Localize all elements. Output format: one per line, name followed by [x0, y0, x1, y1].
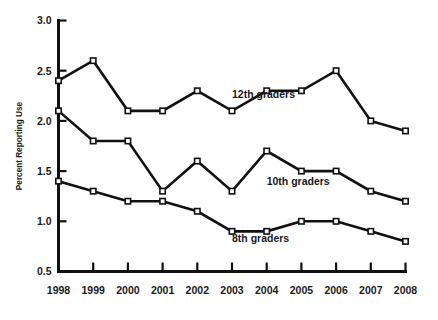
y-tick-label: 0.5: [37, 265, 52, 277]
x-axis-tick-labels: 1998199920002001200220032004200520062007…: [47, 284, 418, 296]
x-tick-label: 2007: [359, 284, 383, 296]
data-point-marker: [160, 188, 165, 193]
series-annotation-label: 8th graders: [232, 232, 289, 244]
line-chart: 0.51.01.52.02.53.0 199819992000200120022…: [0, 0, 438, 320]
y-tick-label: 2.5: [37, 65, 52, 77]
y-tick-label: 2.0: [37, 115, 52, 127]
data-point-marker: [56, 78, 61, 83]
x-tick-label: 2000: [116, 284, 140, 296]
data-point-marker: [91, 58, 96, 63]
data-point-marker: [299, 219, 304, 224]
x-tick-label: 2006: [324, 284, 348, 296]
x-tick-label: 2008: [394, 284, 418, 296]
data-point-marker: [333, 219, 338, 224]
data-point-marker: [56, 108, 61, 113]
series-line-10th-graders: [59, 111, 406, 201]
x-tick-label: 2003: [220, 284, 244, 296]
data-point-marker: [229, 108, 234, 113]
series-annotation-label: 10th graders: [267, 175, 330, 187]
y-axis-title: Percent Reporting Use: [15, 101, 24, 190]
data-point-marker: [91, 138, 96, 143]
data-point-marker: [195, 209, 200, 214]
y-axis-title-text: Percent Reporting Use: [15, 101, 24, 190]
chart-markers-group: [56, 58, 408, 244]
x-tick-label: 2002: [186, 284, 210, 296]
data-point-marker: [160, 108, 165, 113]
data-point-marker: [368, 188, 373, 193]
data-point-marker: [368, 118, 373, 123]
data-point-marker: [229, 188, 234, 193]
x-tick-label: 2001: [151, 284, 175, 296]
data-point-marker: [125, 199, 130, 204]
x-tick-label: 2005: [290, 284, 314, 296]
data-point-marker: [403, 128, 408, 133]
y-axis-tick-labels: 0.51.01.52.02.53.0: [37, 14, 52, 277]
y-tick-label: 1.5: [37, 165, 52, 177]
series-annotation-label: 12th graders: [232, 88, 295, 100]
data-point-marker: [403, 239, 408, 244]
chart-canvas: 0.51.01.52.02.53.0 199819992000200120022…: [0, 0, 438, 320]
data-point-marker: [333, 168, 338, 173]
x-tick-label: 1999: [82, 284, 106, 296]
data-point-marker: [195, 88, 200, 93]
data-point-marker: [125, 138, 130, 143]
data-point-marker: [160, 199, 165, 204]
data-point-marker: [195, 158, 200, 163]
x-tick-label: 2004: [255, 284, 279, 296]
data-point-marker: [333, 68, 338, 73]
data-point-marker: [368, 229, 373, 234]
x-tick-label: 1998: [47, 284, 71, 296]
data-point-marker: [125, 108, 130, 113]
y-tick-label: 1.0: [37, 215, 52, 227]
data-point-marker: [299, 88, 304, 93]
data-point-marker: [264, 148, 269, 153]
data-point-marker: [299, 168, 304, 173]
data-point-marker: [91, 188, 96, 193]
data-point-marker: [403, 199, 408, 204]
data-point-marker: [56, 178, 61, 183]
y-tick-label: 3.0: [37, 14, 52, 26]
